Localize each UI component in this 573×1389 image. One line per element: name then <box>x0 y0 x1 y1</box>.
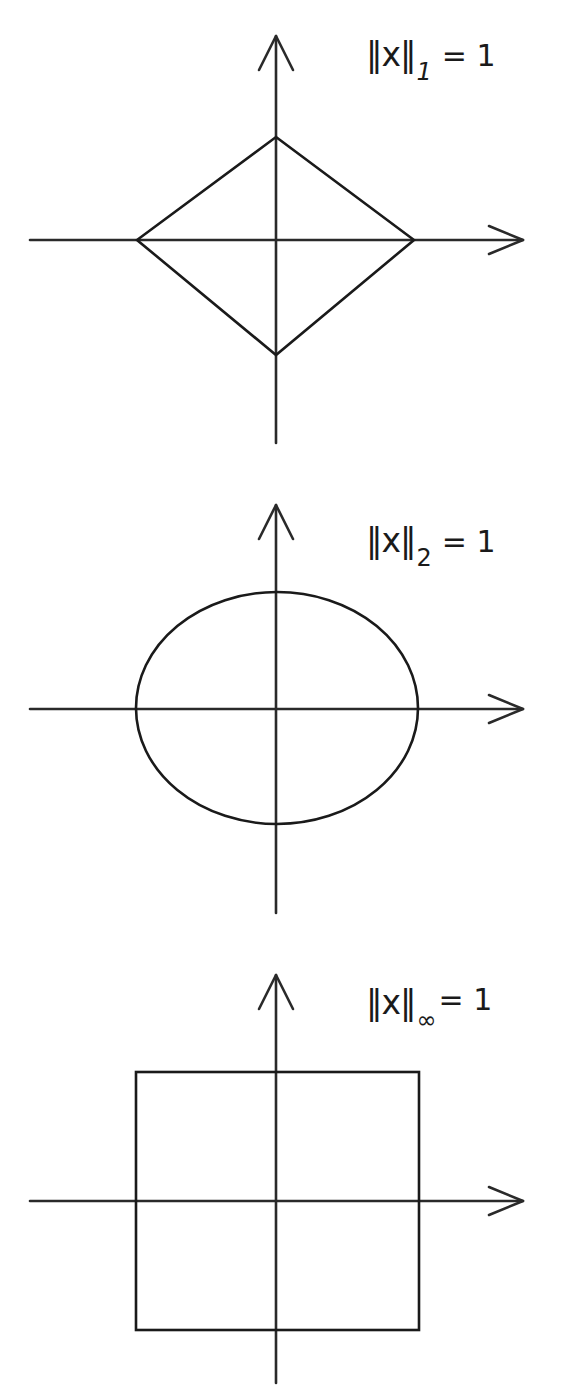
panel-l2-norm: ‖x‖2= 1 <box>0 460 573 930</box>
axes <box>30 36 523 443</box>
panel-l1-norm: ‖x‖1= 1 <box>0 0 573 460</box>
l1-norm-label: ‖x‖1= 1 <box>366 38 496 71</box>
panel-linf-norm: ‖x‖∞= 1 <box>0 930 573 1389</box>
norm-symbol: ‖x‖ <box>366 35 416 74</box>
axes <box>30 505 523 913</box>
norm-subscript: 1 <box>417 58 432 86</box>
norm-subscript: 2 <box>417 544 432 572</box>
equals-one: = 1 <box>442 38 496 73</box>
l2-norm-label: ‖x‖2= 1 <box>366 524 496 557</box>
equals-one: = 1 <box>442 524 496 559</box>
norm-subscript: ∞ <box>417 1006 437 1034</box>
norm-symbol: ‖x‖ <box>366 521 416 560</box>
equals-one: = 1 <box>439 982 493 1017</box>
norm-symbol: ‖x‖ <box>366 983 416 1022</box>
linf-norm-label: ‖x‖∞= 1 <box>366 986 492 1019</box>
axes <box>30 975 523 1383</box>
